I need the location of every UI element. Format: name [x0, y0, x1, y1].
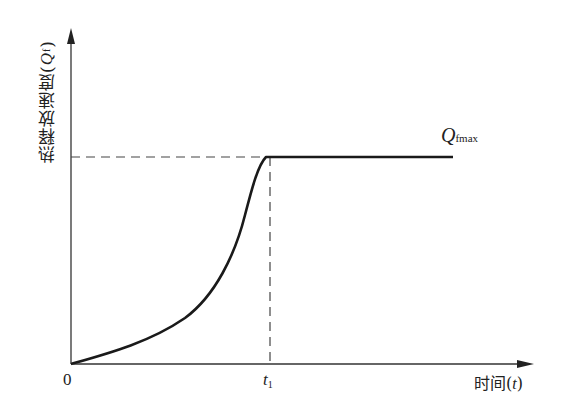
- x-tick-t1: t1: [263, 370, 273, 390]
- heat-release-curve: [71, 157, 453, 364]
- x-axis-label: 时间(t): [474, 370, 523, 394]
- chart: 热释放速度(Qf) 0 t1 时间(t) Qfmax: [0, 0, 562, 413]
- y-axis-arrow-icon: [67, 28, 75, 44]
- qfmax-annotation: Qfmax: [441, 124, 478, 147]
- x-axis-arrow-icon: [517, 360, 534, 368]
- y-axis-label: 热释放速度(Qf): [34, 40, 58, 280]
- chart-canvas: [0, 0, 562, 413]
- x-tick-zero: 0: [63, 370, 72, 390]
